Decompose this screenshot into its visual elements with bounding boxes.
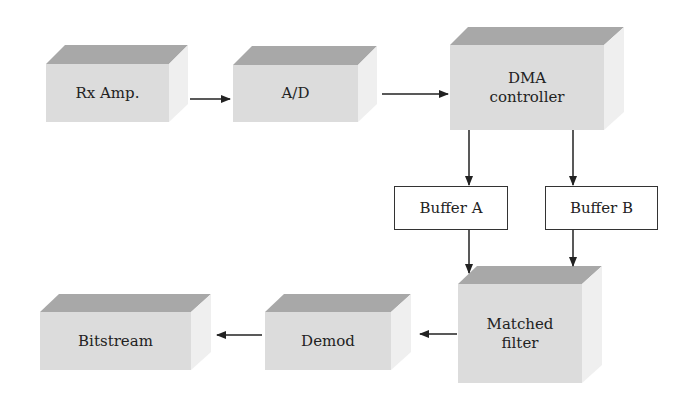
demod-label: Demod xyxy=(301,332,355,351)
demod-block: Demod xyxy=(265,312,391,370)
rx-amp-label: Rx Amp. xyxy=(76,84,140,103)
rx-amp-block: Rx Amp. xyxy=(46,64,169,122)
ad-label: A/D xyxy=(282,84,310,103)
ad-block: A/D xyxy=(233,65,358,122)
bitstream-label: Bitstream xyxy=(78,332,153,351)
matched-filter-line1: Matched xyxy=(487,315,554,334)
dma-label-line2: controller xyxy=(490,88,565,107)
buffer-b-label: Buffer B xyxy=(570,199,633,217)
buffer-b-block: Buffer B xyxy=(545,186,658,230)
matched-filter-line2: filter xyxy=(502,334,539,353)
dma-label-line1: DMA xyxy=(508,69,546,88)
matched-filter-block: Matched filter xyxy=(458,284,582,383)
buffer-a-block: Buffer A xyxy=(394,186,508,230)
bitstream-block: Bitstream xyxy=(40,312,191,370)
buffer-a-label: Buffer A xyxy=(420,199,483,217)
dma-controller-block: DMA controller xyxy=(450,45,604,130)
